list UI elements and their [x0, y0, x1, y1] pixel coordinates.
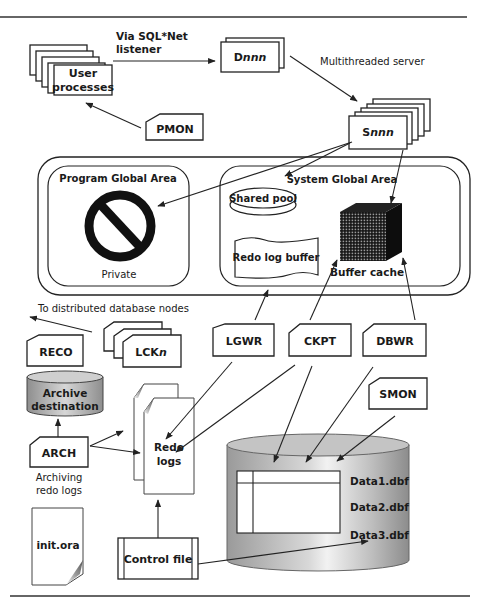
arch-to-redo-log-2-arrow	[90, 446, 140, 453]
to-distributed-arrow	[30, 317, 92, 332]
pmon-label: PMON	[156, 123, 194, 136]
sga-title: System Global Area	[287, 174, 398, 185]
init-ora-label: init.ora	[36, 539, 79, 551]
lgwr-label: LGWR	[226, 335, 263, 348]
shared-server-suffix: nnn	[370, 126, 394, 139]
archiving-label-2: redo logs	[36, 485, 82, 496]
buffer-cache-label: Buffer cache	[330, 266, 404, 278]
archive-destination-label-1: Archive	[43, 387, 88, 399]
shared-server-stack: Snnn	[349, 99, 430, 149]
arch-box: ARCH	[30, 437, 88, 467]
svg-text:LCKn: LCKn	[135, 346, 167, 359]
archiving-label-1: Archiving	[36, 472, 83, 483]
lck-suffix: n	[159, 346, 167, 359]
user-processes-stack: User processes	[30, 45, 114, 95]
user-processes-label-2: processes	[52, 81, 114, 94]
lgwr-box: LGWR	[213, 324, 274, 356]
reco-label: RECO	[39, 346, 72, 359]
redo-log-buffer-label: Redo log buffer	[232, 252, 319, 263]
pga-title: Program Global Area	[59, 173, 176, 184]
archive-destination-label-2: destination	[31, 400, 98, 412]
user-processes-label-1: User	[69, 67, 98, 80]
init-ora-document: init.ora	[32, 508, 83, 585]
svg-text:Dnnn: Dnnn	[234, 51, 267, 64]
ckpt-label: CKPT	[304, 335, 337, 348]
shared-pool: Shared pool	[229, 188, 297, 215]
redo-log-buffer: Redo log buffer	[232, 238, 319, 278]
reco-box: RECO	[27, 335, 83, 366]
dispatcher-box: Dnnn	[221, 38, 284, 72]
via-sqlnet-label-1: Via SQL*Net	[116, 30, 188, 42]
dispatcher-prefix: D	[234, 51, 243, 64]
via-sqlnet-label-2: listener	[116, 43, 162, 55]
no-entry-icon	[89, 195, 151, 257]
datafile-2-label: Data2.dbf	[350, 501, 409, 513]
archive-destination-cylinder: Archive destination	[27, 371, 103, 416]
dbwr-to-buffer-cache-arrow	[403, 258, 415, 320]
control-file-box: Control file	[118, 538, 198, 579]
redo-logs-label-1: Redo	[154, 441, 184, 453]
dbwr-box: DBWR	[363, 324, 426, 356]
arch-label: ARCH	[42, 447, 76, 460]
dispatcher-suffix: nnn	[243, 51, 267, 64]
arch-to-redo-log-1-arrow	[90, 431, 123, 446]
lck-stack: LCKn	[104, 322, 181, 367]
redo-logs-documents: Redo logs	[134, 384, 194, 494]
pga-private-label: Private	[102, 269, 137, 280]
pmon-to-user-processes-arrow	[86, 103, 141, 128]
redo-logs-label-2: logs	[157, 455, 182, 467]
shared-server-to-sga-arrow	[285, 143, 350, 176]
lck-prefix: LCK	[135, 346, 159, 359]
buffer-cache-cube-icon	[340, 203, 402, 261]
shared-server-prefix: S	[362, 126, 370, 139]
datafile-3-label: Data3.dbf	[350, 529, 409, 541]
control-file-label: Control file	[124, 553, 193, 566]
multithreaded-server-label: Multithreaded server	[320, 56, 425, 67]
smon-box: SMON	[369, 378, 427, 409]
smon-label: SMON	[379, 388, 416, 401]
shared-pool-label: Shared pool	[229, 193, 297, 204]
datafiles-cylinder: Data1.dbf Data2.dbf Data3.dbf	[227, 434, 409, 571]
dbwr-label: DBWR	[376, 335, 414, 348]
architecture-diagram: User processes Via SQL*Net listener Dnnn…	[0, 0, 485, 613]
ckpt-box: CKPT	[289, 324, 351, 356]
datafile-1-label: Data1.dbf	[350, 475, 409, 487]
pmon-box: PMON	[146, 114, 203, 140]
svg-text:Snnn: Snnn	[362, 126, 394, 139]
to-distributed-label: To distributed database nodes	[37, 303, 189, 314]
